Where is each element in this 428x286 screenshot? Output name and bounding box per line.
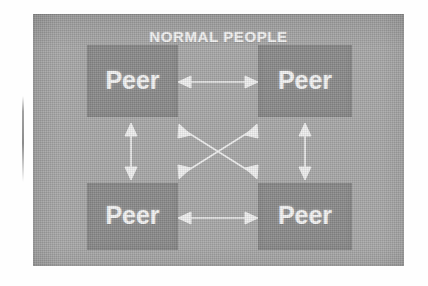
arrow-top-horizontal — [178, 76, 258, 88]
scan-artifact-line — [22, 96, 24, 182]
node-label: Peer — [105, 201, 159, 230]
diagram-panel: NORMAL PEOPLE Peer Peer Peer Peer — [33, 14, 404, 266]
node-peer-bottom-left[interactable]: Peer — [87, 183, 178, 250]
node-peer-top-left[interactable]: Peer — [87, 45, 178, 117]
page-title: NORMAL PEOPLE — [33, 28, 404, 45]
node-peer-bottom-right[interactable]: Peer — [258, 183, 352, 250]
arrow-bottom-horizontal — [178, 212, 258, 224]
arrow-diagonal-tl-br — [178, 124, 258, 179]
arrow-diagonal-tr-bl — [178, 124, 258, 179]
arrow-right-vertical — [299, 123, 311, 180]
node-peer-top-right[interactable]: Peer — [258, 45, 352, 117]
node-label: Peer — [278, 66, 332, 95]
node-label: Peer — [105, 66, 159, 95]
node-label: Peer — [278, 201, 332, 230]
arrow-left-vertical — [125, 123, 137, 180]
scanned-figure: NORMAL PEOPLE Peer Peer Peer Peer — [0, 0, 428, 286]
